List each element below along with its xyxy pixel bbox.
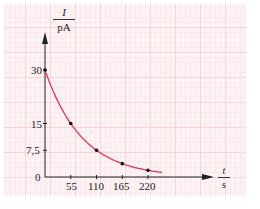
y-tick-7-5: 7,5 [26,145,40,156]
y-tick-30: 30 [31,65,42,76]
data-point [69,122,73,126]
x-symbol: t [218,165,230,176]
grid-lines [4,4,246,196]
x-unit: s [218,179,230,190]
y-symbol: I [53,6,75,18]
x-axis-label: t s [218,165,230,190]
data-point [43,68,47,72]
x-tick-165: 165 [113,181,130,192]
x-tick-55: 55 [66,181,77,192]
data-point [120,162,124,166]
x-tick-220: 220 [139,181,156,192]
x-tick-110: 110 [88,181,104,192]
data-point [95,148,99,152]
y-tick-15: 15 [31,119,42,130]
y-tick-0: 0 [35,172,41,183]
y-axis-label: I pA [53,6,75,33]
y-unit: pA [53,21,75,33]
data-point [146,168,150,172]
